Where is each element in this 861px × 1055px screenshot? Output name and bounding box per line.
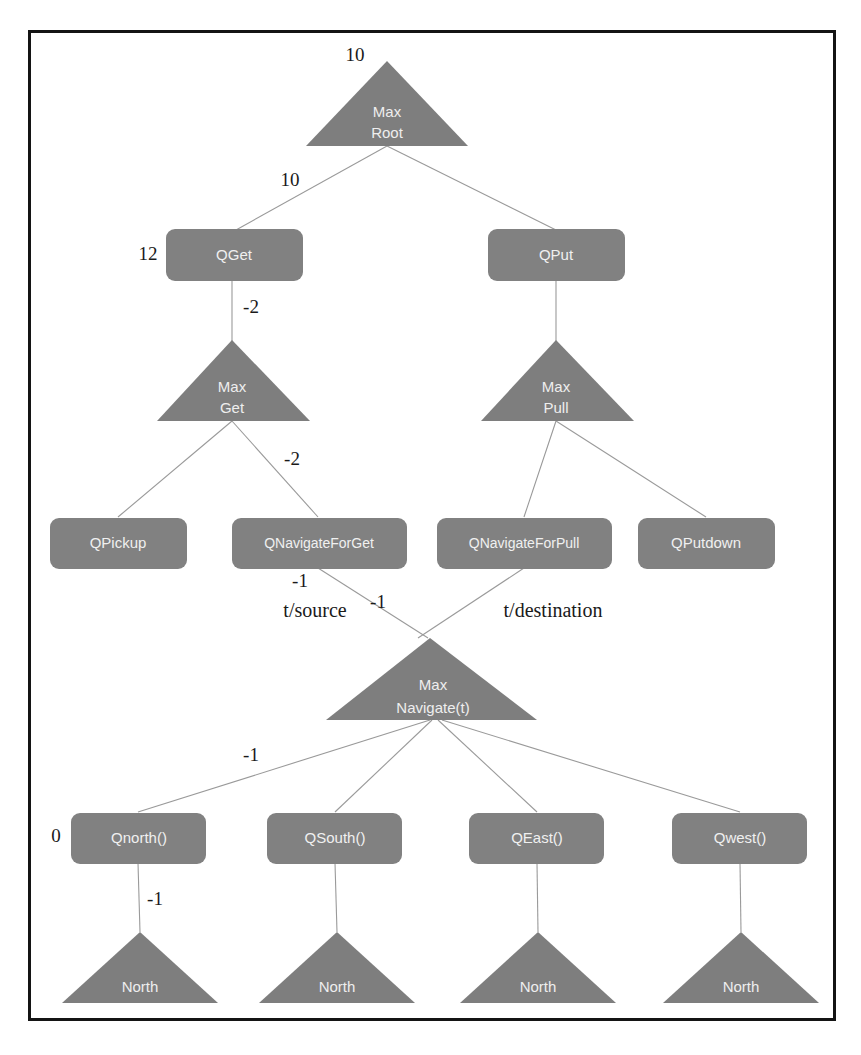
node-north-1-label: North (122, 978, 159, 995)
node-qget[interactable]: QGet (166, 229, 303, 281)
node-qnavigateforget-label: QNavigateForGet (264, 535, 374, 551)
label-qget-to-maxget: -2 (243, 296, 259, 317)
label-maxget-to-qnavigateforget: -2 (284, 448, 300, 469)
label-qget-value: 12 (139, 243, 158, 264)
edge-root-to-qget (236, 146, 387, 230)
edge-maxpull-to-qputdown (556, 421, 706, 517)
node-max-pull-label-line2: Pull (543, 399, 568, 416)
node-qeast[interactable]: QEast() (469, 813, 604, 864)
node-qget-label: QGet (216, 246, 253, 263)
maxq-task-hierarchy-diagram: Max Root QGet QPut Max Get Max Pull Q (0, 0, 861, 1055)
label-root-to-qget: 10 (281, 169, 300, 190)
label-qnavigateforpull-edge: -1 (370, 591, 386, 612)
edge-qnorth-to-north (138, 863, 140, 932)
label-navigate-to-qnorth: -1 (243, 744, 259, 765)
edge-maxget-to-qnavigateforget (232, 421, 318, 517)
node-qwest[interactable]: Qwest() (672, 813, 807, 864)
edge-qsouth-to-north (335, 863, 337, 932)
label-root-value: 10 (346, 44, 365, 65)
node-qnavigateforget[interactable]: QNavigateForGet (232, 518, 407, 569)
node-max-navigate-label-line2: Navigate(t) (396, 699, 469, 716)
node-qput[interactable]: QPut (488, 229, 625, 281)
edge-qwest-to-north (740, 863, 741, 932)
node-qnavigateforpull[interactable]: QNavigateForPull (437, 518, 612, 569)
node-north-2[interactable]: North (259, 932, 415, 1003)
node-qpickup[interactable]: QPickup (50, 518, 187, 569)
node-qnavigateforpull-label: QNavigateForPull (469, 535, 580, 551)
edge-maxget-to-qpickup (118, 421, 232, 517)
edge-maxpull-to-qnavigateforpull (524, 421, 556, 517)
label-layer: 10 10 12 -2 -2 -1 -1 t/source t/destinat… (51, 44, 602, 909)
edge-maxnavigate-to-qsouth (335, 720, 432, 812)
label-qnorth-value: 0 (51, 825, 61, 846)
node-max-navigate-label-line1: Max (419, 676, 448, 693)
node-max-navigate[interactable]: Max Navigate(t) (326, 638, 537, 720)
node-north-3-label: North (520, 978, 557, 995)
node-north-2-label: North (319, 978, 356, 995)
node-qeast-label: QEast() (511, 829, 563, 846)
label-t-destination: t/destination (504, 599, 603, 621)
node-qpickup-label: QPickup (90, 534, 147, 551)
node-max-get[interactable]: Max Get (157, 340, 310, 421)
edge-maxnavigate-to-qnorth (138, 720, 430, 812)
node-north-3[interactable]: North (460, 932, 616, 1003)
node-qput-label: QPut (539, 246, 574, 263)
node-max-root-label-line1: Max (373, 103, 402, 120)
node-max-root-label-line2: Root (371, 124, 404, 141)
node-north-4-label: North (723, 978, 760, 995)
node-max-get-label-line2: Get (220, 399, 245, 416)
label-qnorth-to-north: -1 (147, 888, 163, 909)
node-max-pull[interactable]: Max Pull (481, 340, 634, 421)
node-qsouth-label: QSouth() (305, 829, 366, 846)
label-t-source: t/source (283, 599, 346, 621)
node-max-pull-label-line1: Max (542, 378, 571, 395)
label-qnavigateforget-edge: -1 (292, 570, 308, 591)
edge-qeast-to-north (537, 863, 538, 932)
node-max-root[interactable]: Max Root (306, 61, 468, 146)
node-north-1[interactable]: North (62, 932, 218, 1003)
node-north-4[interactable]: North (663, 932, 819, 1003)
node-qnorth-label: Qnorth() (111, 829, 167, 846)
node-qsouth[interactable]: QSouth() (267, 813, 402, 864)
node-qputdown-label: QPutdown (671, 534, 741, 551)
node-qputdown[interactable]: QPutdown (638, 518, 775, 569)
edge-root-to-qput (387, 146, 556, 230)
node-qnorth[interactable]: Qnorth() (71, 813, 206, 864)
node-max-get-label-line1: Max (218, 378, 247, 395)
node-qwest-label: Qwest() (714, 829, 767, 846)
